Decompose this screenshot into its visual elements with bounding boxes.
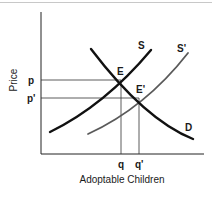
- tick-label-q: q: [118, 159, 124, 170]
- label-S: S: [138, 40, 145, 51]
- x-axis-title: Adoptable Children: [79, 174, 164, 185]
- y-axis-title: Price: [8, 68, 19, 91]
- label-E-prime: E': [136, 84, 145, 95]
- label-E: E: [117, 66, 124, 77]
- label-S-prime: S': [177, 43, 186, 54]
- tick-label-p: p: [28, 75, 34, 86]
- tick-label-p-prime: p': [27, 93, 36, 104]
- supply-demand-chart: S S' D E E' p p' q q' Adoptable Children…: [0, 0, 217, 198]
- label-D: D: [185, 122, 192, 133]
- tick-label-q-prime: q': [135, 159, 144, 170]
